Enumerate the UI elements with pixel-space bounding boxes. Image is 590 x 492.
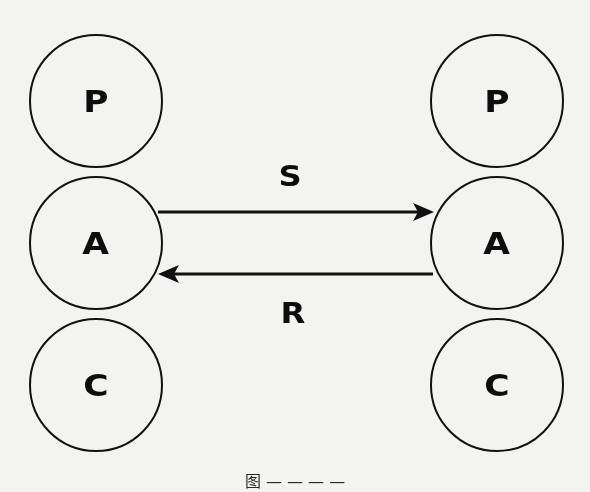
edge-r-label: R — [280, 297, 305, 330]
arrow-s — [158, 203, 434, 221]
arrow-r — [158, 265, 433, 283]
figure-caption: 图 — — — — — [0, 468, 590, 492]
edge-s-label: S — [278, 160, 301, 193]
